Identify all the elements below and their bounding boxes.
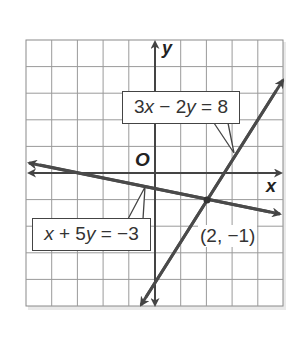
eq2-rhs: = −3 [95, 223, 138, 244]
eq1-y: y [186, 96, 196, 117]
eq2-mid: + 5 [54, 223, 86, 244]
intersection-point [204, 197, 211, 204]
origin-label: O [135, 149, 150, 171]
eq1-rhs: = 8 [196, 96, 228, 117]
equation-label-3x-minus-2y: 3x − 2y = 8 [122, 91, 240, 124]
y-axis-label: y [162, 38, 172, 59]
eq2-x: x [44, 223, 54, 244]
equation-label-x-plus-5y: x + 5y = −3 [32, 218, 151, 251]
coordinate-graph: y x O 3x − 2y = 8 x + 5y = −3 (2, −1) [0, 0, 299, 341]
intersection-label: (2, −1) [198, 225, 257, 247]
x-axis-label: x [266, 176, 276, 197]
eq1-coef: 3 [134, 96, 145, 117]
eq1-x: x [145, 96, 155, 117]
eq1-mid: − 2 [154, 96, 186, 117]
